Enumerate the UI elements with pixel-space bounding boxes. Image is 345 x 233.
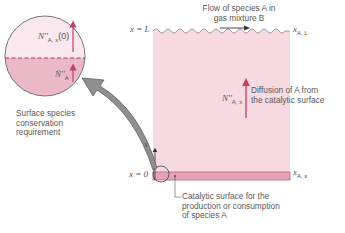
circle-top-flux-label: N''A, x(0) <box>38 32 69 45</box>
magnify-curved-arrow <box>82 78 157 170</box>
x-equals-0-label: x = 0 <box>129 170 148 180</box>
magnified-surface-circle <box>0 0 100 108</box>
catalytic-surface-label: Catalytic surface for the production or … <box>182 192 280 221</box>
x-axis-label: x <box>144 140 148 150</box>
wavy-boundary-line <box>153 29 290 33</box>
flux-NAx-label: N''A, x <box>222 94 242 107</box>
circle-generation-label: Ṅ''A <box>55 70 69 83</box>
x-equals-L-label: x = L <box>130 25 150 35</box>
xAL-label: xA, L <box>293 25 308 38</box>
diffusion-label: Diffusion of A from the catalytic surfac… <box>251 86 324 105</box>
xAs-label: xA, s <box>293 168 307 181</box>
flow-label: Flow of species A in gas mixture B <box>196 4 282 23</box>
surface-conservation-label: Surface species conservation requirement <box>16 109 75 138</box>
catalytic-surface-bar <box>153 172 290 180</box>
